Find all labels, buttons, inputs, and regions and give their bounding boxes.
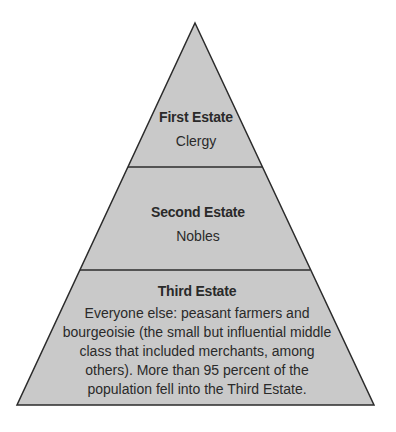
tier-body: Nobles bbox=[100, 227, 296, 246]
tier-title: Third Estate bbox=[62, 282, 332, 300]
tier-third-estate: Third Estate Everyone else: peasant farm… bbox=[62, 282, 332, 399]
tier-body: Everyone else: peasant farmers and bourg… bbox=[62, 304, 332, 399]
tier-first-estate: First Estate Clergy bbox=[130, 108, 262, 151]
tier-title: First Estate bbox=[130, 108, 262, 126]
tier-body: Clergy bbox=[130, 132, 262, 151]
tier-second-estate: Second Estate Nobles bbox=[100, 203, 296, 246]
tier-title: Second Estate bbox=[100, 203, 296, 221]
